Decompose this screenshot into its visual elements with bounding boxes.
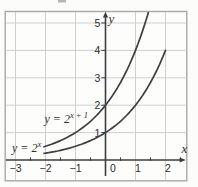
y-tick-label-5: 5 <box>94 17 100 29</box>
y-tick-label-2: 2 <box>94 99 100 111</box>
figure-container: −3−2−101212345 y = 2xy = 2x + 1 x y <box>0 0 198 187</box>
plot-frame <box>5 12 187 181</box>
y-tick-label-4: 4 <box>94 44 100 56</box>
scan-artifact <box>58 0 66 3</box>
x-tick-label--3: −3 <box>10 162 22 174</box>
x-tick-label-1: 1 <box>135 162 141 174</box>
curve-label-y-equals-2-to-the-x: y = 2x <box>11 139 41 155</box>
y-tick-label-3: 3 <box>94 72 100 84</box>
x-tick-label--2: −2 <box>40 162 52 174</box>
y-axis-label: y <box>107 11 115 26</box>
exponential-functions-chart: −3−2−101212345 y = 2xy = 2x + 1 x y <box>0 0 198 187</box>
x-axis-label: x <box>181 141 188 156</box>
x-tick-label--1: −1 <box>70 162 82 174</box>
x-tick-label-2: 2 <box>165 162 171 174</box>
x-tick-label-0: 0 <box>110 162 116 174</box>
